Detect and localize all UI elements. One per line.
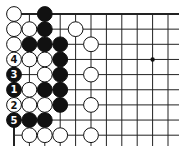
- white-stone: [37, 98, 52, 113]
- black-stone: [53, 52, 68, 67]
- white-stone: [7, 22, 22, 37]
- black-stone-circle: [37, 7, 52, 22]
- white-stone-circle: [7, 22, 22, 37]
- black-stone-circle: [37, 37, 52, 52]
- white-stone: [68, 22, 83, 37]
- white-stone: [22, 98, 37, 113]
- black-stone: [22, 113, 37, 128]
- star-points: [150, 57, 154, 61]
- black-stone-circle: [37, 22, 52, 37]
- white-stone: [7, 7, 22, 22]
- white-stone-circle: [7, 7, 22, 22]
- black-stone-circle: [53, 52, 68, 67]
- white-stone-circle: [84, 128, 99, 143]
- move-number-label: 1: [11, 84, 18, 95]
- black-stone: [37, 7, 52, 22]
- white-stone-circle: [22, 82, 37, 97]
- move-number-label: 3: [11, 69, 18, 80]
- black-stone-circle: [53, 67, 68, 82]
- move-number-label: 4: [11, 54, 18, 65]
- white-stone: [22, 22, 37, 37]
- black-stone-circle: [22, 113, 37, 128]
- go-board-diagram: 43125: [0, 0, 189, 152]
- black-stone: [53, 82, 68, 97]
- white-stone: [84, 37, 99, 52]
- white-stone-circle: [84, 98, 99, 113]
- black-stone: [53, 67, 68, 82]
- white-stone: 4: [7, 52, 22, 67]
- white-stone: [37, 52, 52, 67]
- white-stone: [37, 67, 52, 82]
- white-stone: [84, 98, 99, 113]
- black-stone-circle: [37, 82, 52, 97]
- white-stone-circle: [37, 128, 52, 143]
- white-stone-circle: [7, 37, 22, 52]
- white-stone-circle: [37, 98, 52, 113]
- white-stone-circle: [68, 22, 83, 37]
- black-stone-circle: [53, 98, 68, 113]
- star-point: [150, 57, 154, 61]
- black-stone-circle: [53, 82, 68, 97]
- white-stone: [37, 128, 52, 143]
- stones-layer: 43125: [7, 7, 99, 143]
- white-stone: [84, 67, 99, 82]
- black-stone: [37, 22, 52, 37]
- go-board: 43125: [0, 0, 189, 152]
- white-stone-circle: [84, 37, 99, 52]
- black-stone: [37, 37, 52, 52]
- move-number-label: 2: [11, 100, 18, 111]
- white-stone-circle: [37, 67, 52, 82]
- white-stone-circle: [37, 52, 52, 67]
- black-stone-circle: [22, 37, 37, 52]
- white-stone-circle: [22, 128, 37, 143]
- black-stone-circle: [37, 113, 52, 128]
- white-stone: [22, 128, 37, 143]
- white-stone: [22, 82, 37, 97]
- move-number-label: 5: [11, 115, 18, 126]
- black-stone: 1: [7, 82, 22, 97]
- black-stone: [37, 113, 52, 128]
- black-stone: 5: [7, 113, 22, 128]
- white-stone-circle: [22, 52, 37, 67]
- black-stone-circle: [53, 37, 68, 52]
- white-stone: 2: [7, 98, 22, 113]
- white-stone: [22, 52, 37, 67]
- black-stone: 3: [7, 67, 22, 82]
- black-stone: [37, 82, 52, 97]
- white-stone: [84, 128, 99, 143]
- white-stone: [7, 37, 22, 52]
- white-stone-circle: [22, 22, 37, 37]
- white-stone: [53, 128, 68, 143]
- white-stone-circle: [84, 67, 99, 82]
- white-stone-circle: [22, 98, 37, 113]
- white-stone-circle: [53, 128, 68, 143]
- black-stone: [22, 37, 37, 52]
- black-stone: [53, 98, 68, 113]
- black-stone: [53, 37, 68, 52]
